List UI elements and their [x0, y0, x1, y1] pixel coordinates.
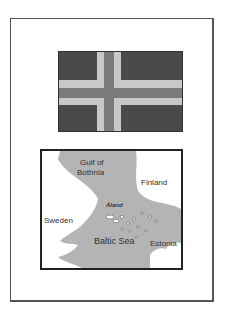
estonia-land — [150, 248, 174, 268]
flag-cross-horizontal-inner — [59, 88, 182, 98]
label-baltic-sea: Baltic Sea — [94, 237, 135, 246]
map-shapes — [42, 151, 181, 268]
label-aland: Åland — [106, 202, 123, 208]
label-gulf-of-line1: Gulf of — [80, 159, 104, 167]
label-estonia: Estonia — [150, 240, 177, 248]
map-image: Gulf of Bothnia Finland Sweden Baltic Se… — [40, 149, 183, 270]
label-finland: Finland — [141, 179, 167, 187]
flag-image — [58, 51, 183, 132]
label-sweden: Sweden — [44, 217, 73, 225]
label-gulf-of-bothnia-line2: Bothnia — [77, 169, 104, 177]
